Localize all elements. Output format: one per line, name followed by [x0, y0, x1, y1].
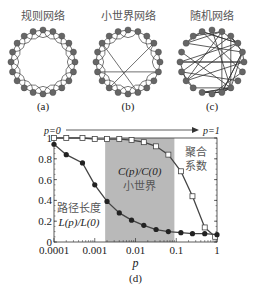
network-node: [94, 49, 100, 55]
network-node: [155, 69, 161, 75]
data-point-circle: [64, 152, 69, 157]
network-node: [70, 49, 76, 55]
network-node: [125, 91, 131, 97]
network-node: [50, 89, 56, 95]
network-node: [93, 59, 99, 65]
y-tick-label: 0.6: [38, 174, 52, 186]
network-node: [151, 78, 157, 84]
network-node: [125, 27, 131, 33]
network-node: [239, 69, 245, 75]
network-node: [14, 40, 20, 46]
network-node: [30, 28, 36, 34]
data-point-square: [64, 136, 69, 141]
data-point-circle: [153, 227, 158, 232]
network-node: [50, 28, 56, 34]
clustering-label-1: 聚合: [185, 145, 207, 159]
network-node: [155, 49, 161, 55]
data-point-circle: [178, 230, 183, 235]
x-tick-label: 0.01: [126, 244, 145, 256]
x-tick-label: 0.0001: [39, 244, 69, 256]
path-length-label: 路径长度: [57, 201, 101, 215]
network-smallworld: 小世界网络(b): [93, 9, 163, 113]
data-point-circle: [214, 232, 219, 237]
path-length-ratio: L(p)/L(0): [58, 216, 100, 229]
data-point-square: [80, 136, 85, 141]
network-caption: (a): [37, 100, 50, 113]
data-point-square: [129, 138, 134, 143]
network-node: [157, 59, 163, 65]
network-node: [70, 69, 76, 75]
data-point-circle: [80, 160, 85, 165]
network-node: [199, 89, 205, 95]
network-node: [66, 78, 72, 84]
y-tick-label: 0.2: [38, 215, 52, 227]
data-point-circle: [166, 229, 171, 234]
network-node: [14, 78, 20, 84]
data-point-circle: [117, 210, 122, 215]
network-node: [21, 85, 27, 91]
network-node: [99, 78, 105, 84]
network-edge: [109, 43, 154, 88]
network-node: [190, 85, 196, 91]
network-node: [9, 69, 15, 75]
network-node: [178, 69, 184, 75]
data-point-square: [166, 152, 171, 157]
network-node: [228, 85, 234, 91]
x-tick-label: 0.001: [82, 244, 107, 256]
network-node: [8, 59, 14, 65]
network-node: [115, 28, 121, 34]
network-node: [99, 40, 105, 46]
data-point-circle: [202, 231, 207, 236]
arrow-head-icon: [192, 127, 199, 133]
network-node: [106, 85, 112, 91]
data-point-square: [117, 137, 122, 142]
x-tick-label: 1: [214, 244, 220, 256]
network-edge: [212, 30, 231, 88]
network-node: [228, 33, 234, 39]
data-point-square: [52, 136, 57, 141]
network-node: [190, 33, 196, 39]
data-point-square: [154, 144, 159, 149]
network-node: [235, 40, 241, 46]
data-point-square: [92, 137, 97, 142]
network-regular: 规则网络(a): [8, 9, 78, 113]
data-point-circle: [104, 199, 109, 204]
data-point-square: [105, 137, 110, 142]
x-axis-label: p: [132, 256, 139, 270]
network-title: 规则网络: [21, 9, 65, 23]
network-node: [21, 33, 27, 39]
network-node: [66, 40, 72, 46]
network-title: 小世界网络: [101, 9, 156, 23]
network-caption: (c): [206, 100, 219, 113]
network-node: [115, 89, 121, 95]
data-point-circle: [190, 231, 195, 236]
network-caption: (b): [122, 100, 135, 113]
network-node: [235, 78, 241, 84]
network-node: [40, 91, 46, 97]
data-point-square: [178, 169, 183, 174]
network-node: [239, 49, 245, 55]
arrow-right-label: p=1: [202, 125, 220, 136]
network-node: [59, 33, 65, 39]
data-point-square: [141, 140, 146, 145]
data-point-square: [190, 194, 195, 199]
plot-area: C(p)/C(0)小世界00.20.40.60.810.00010.0010.0…: [38, 132, 220, 285]
network-node: [40, 27, 46, 33]
network-title: 随机网络: [190, 9, 234, 23]
network-node: [151, 40, 157, 46]
network-node: [106, 33, 112, 39]
network-node: [135, 28, 141, 34]
chart-caption: (d): [129, 272, 142, 285]
network-node: [9, 49, 15, 55]
region-label-ratio: C(p)/C(0): [118, 165, 162, 178]
network-node: [183, 78, 189, 84]
data-point-square: [202, 225, 207, 230]
network-node: [219, 89, 225, 95]
network-node: [209, 91, 215, 97]
x-tick-label: 0.1: [169, 244, 183, 256]
network-node: [241, 59, 247, 65]
data-point-circle: [141, 223, 146, 228]
network-node: [94, 69, 100, 75]
network-node: [144, 85, 150, 91]
y-tick-label: 0.8: [38, 153, 52, 165]
